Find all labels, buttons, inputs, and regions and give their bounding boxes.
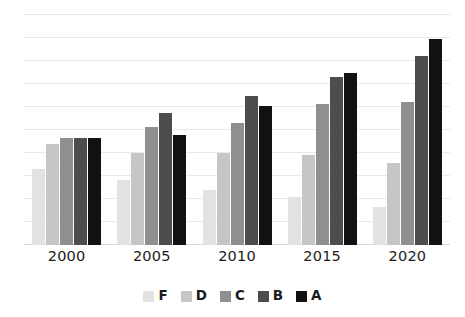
- legend-item-F[interactable]: F: [143, 289, 167, 303]
- legend-item-A[interactable]: A: [296, 289, 321, 303]
- bar-D-2005[interactable]: [131, 153, 144, 245]
- bar-D-2015[interactable]: [302, 155, 315, 245]
- bar-C-2015[interactable]: [316, 104, 329, 245]
- x-tick-label-2005: 2005: [109, 248, 194, 264]
- bar-D-2010[interactable]: [217, 153, 230, 245]
- bar-F-2010[interactable]: [203, 190, 216, 245]
- bar-B-2010[interactable]: [245, 96, 258, 245]
- x-tick-label-2015: 2015: [280, 248, 365, 264]
- legend-swatch-C: [220, 291, 231, 302]
- legend-swatch-F: [143, 291, 154, 302]
- bar-A-2000[interactable]: [88, 138, 101, 245]
- chart-legend: FDCBA: [0, 286, 465, 306]
- legend-label-B: B: [273, 289, 283, 303]
- x-axis: 20002005201020152020: [24, 248, 450, 274]
- bar-B-2005[interactable]: [159, 113, 172, 245]
- plot-area: [24, 14, 450, 245]
- bar-chart: 20002005201020152020 FDCBA: [0, 0, 465, 317]
- bar-F-2015[interactable]: [288, 197, 301, 245]
- bar-F-2020[interactable]: [373, 207, 386, 245]
- bar-group-2000: [32, 14, 101, 245]
- legend-item-C[interactable]: C: [220, 289, 245, 303]
- bar-C-2020[interactable]: [401, 102, 414, 245]
- bar-group-2010: [203, 14, 272, 245]
- bar-A-2010[interactable]: [259, 106, 272, 245]
- legend-swatch-D: [181, 291, 192, 302]
- bar-F-2005[interactable]: [117, 180, 130, 245]
- bar-A-2005[interactable]: [173, 135, 186, 245]
- x-tick-label-2010: 2010: [194, 248, 279, 264]
- legend-swatch-B: [258, 291, 269, 302]
- bar-C-2010[interactable]: [231, 123, 244, 245]
- bar-group-2015: [288, 14, 357, 245]
- legend-item-D[interactable]: D: [181, 289, 207, 303]
- bar-D-2000[interactable]: [46, 144, 59, 245]
- legend-item-B[interactable]: B: [258, 289, 283, 303]
- bar-A-2015[interactable]: [344, 73, 357, 245]
- bar-B-2000[interactable]: [74, 138, 87, 245]
- bar-group-2005: [117, 14, 186, 245]
- legend-swatch-A: [296, 291, 307, 302]
- bars-layer: [24, 14, 450, 245]
- bar-C-2005[interactable]: [145, 127, 158, 245]
- bar-F-2000[interactable]: [32, 169, 45, 245]
- legend-label-D: D: [196, 289, 207, 303]
- legend-label-C: C: [235, 289, 245, 303]
- bar-B-2015[interactable]: [330, 77, 343, 245]
- bar-A-2020[interactable]: [429, 39, 442, 245]
- bar-group-2020: [373, 14, 442, 245]
- bar-C-2000[interactable]: [60, 138, 73, 245]
- legend-label-A: A: [311, 289, 321, 303]
- x-tick-label-2020: 2020: [365, 248, 450, 264]
- legend-label-F: F: [158, 289, 167, 303]
- bar-D-2020[interactable]: [387, 163, 400, 245]
- bar-B-2020[interactable]: [415, 56, 428, 245]
- x-tick-label-2000: 2000: [24, 248, 109, 264]
